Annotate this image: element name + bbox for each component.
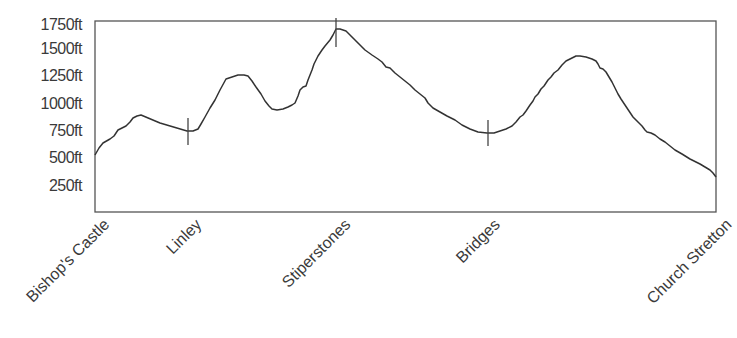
y-tick-label-250: 250ft — [49, 178, 82, 194]
elevation-profile-line — [95, 29, 716, 177]
y-tick-label-1000: 1000ft — [41, 96, 82, 112]
y-tick-label-500: 500ft — [49, 150, 82, 166]
y-tick-label-1750: 1750ft — [41, 17, 82, 33]
plot-frame — [95, 21, 716, 212]
y-tick-label-1500: 1500ft — [41, 41, 82, 57]
y-tick-label-1250: 1250ft — [41, 68, 82, 84]
elevation-profile-chart — [0, 0, 737, 338]
y-tick-label-750: 750ft — [49, 123, 82, 139]
